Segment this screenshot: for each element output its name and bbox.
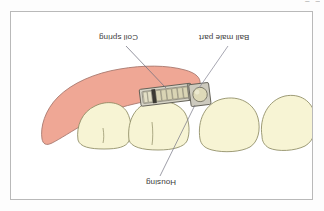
- tooth-molar-first: [199, 98, 259, 152]
- tooth-molar-second: [261, 95, 316, 150]
- label-ball-male-part: Ball male part: [199, 33, 249, 42]
- figure-root: –– ––: [0, 0, 324, 211]
- label-housing: Housing: [146, 178, 176, 187]
- tooth-premolar-mid: [129, 101, 189, 150]
- ball-male-part-leader-line: [199, 46, 228, 88]
- label-coil-spring: Coil spring: [99, 33, 138, 42]
- coil-spring-coils-left: [143, 91, 153, 103]
